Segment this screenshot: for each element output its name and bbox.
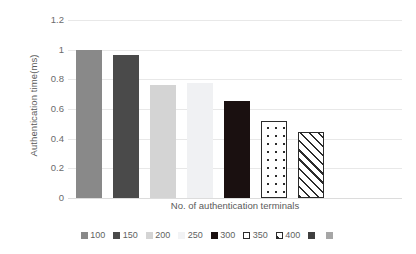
bar-300 bbox=[224, 101, 250, 198]
y-axis-tick-label: 0.6 bbox=[30, 104, 64, 114]
legend-item-200[interactable]: 200 bbox=[146, 231, 171, 240]
bar-400 bbox=[298, 132, 324, 198]
y-axis-tick-label: 1.2 bbox=[30, 15, 64, 25]
legend-swatch-icon bbox=[146, 232, 153, 239]
bar-200 bbox=[150, 85, 176, 198]
legend-label: 150 bbox=[123, 231, 138, 240]
bar-100 bbox=[76, 50, 102, 198]
legend-swatch-icon bbox=[308, 232, 315, 239]
legend-label: 200 bbox=[155, 231, 170, 240]
chart-legend: 100150200250300350400 bbox=[0, 231, 416, 240]
x-axis-title: No. of authentication terminals bbox=[68, 200, 402, 211]
legend-item-150[interactable]: 150 bbox=[113, 231, 138, 240]
legend-swatch-icon bbox=[326, 232, 333, 239]
legend-swatch-icon bbox=[113, 232, 120, 239]
plot-area bbox=[68, 20, 402, 198]
legend-swatch-icon bbox=[276, 232, 283, 239]
legend-item-400[interactable]: 400 bbox=[276, 231, 301, 240]
legend-item-350[interactable]: 350 bbox=[243, 231, 268, 240]
legend-item-8[interactable] bbox=[326, 232, 336, 239]
bar-350 bbox=[261, 121, 287, 198]
legend-label: 100 bbox=[90, 231, 105, 240]
y-axis-tick-label: 0.4 bbox=[30, 134, 64, 144]
legend-item-250[interactable]: 250 bbox=[178, 231, 203, 240]
y-axis-tick-label: 0.2 bbox=[30, 163, 64, 173]
legend-swatch-icon bbox=[178, 232, 185, 239]
legend-swatch-icon bbox=[211, 232, 218, 239]
legend-item-300[interactable]: 300 bbox=[211, 231, 236, 240]
legend-swatch-icon bbox=[243, 232, 250, 239]
legend-label: 350 bbox=[253, 231, 268, 240]
y-axis-tick-label: 0.8 bbox=[30, 74, 64, 84]
y-axis-tick-label: 0 bbox=[30, 193, 64, 203]
bar-chart: Authentication time(ms) 00.20.40.60.811.… bbox=[0, 0, 416, 254]
bar-250 bbox=[187, 83, 213, 198]
bar-group bbox=[68, 20, 402, 198]
y-axis-tick-label: 1 bbox=[30, 45, 64, 55]
gridline bbox=[68, 198, 402, 199]
legend-item-100[interactable]: 100 bbox=[81, 231, 106, 240]
bar-150 bbox=[113, 55, 139, 198]
legend-swatch-icon bbox=[81, 232, 88, 239]
y-axis-tick-labels: 00.20.40.60.811.2 bbox=[24, 0, 64, 254]
legend-label: 300 bbox=[220, 231, 235, 240]
legend-label: 400 bbox=[285, 231, 300, 240]
legend-item-7[interactable] bbox=[308, 232, 318, 239]
legend-label: 250 bbox=[188, 231, 203, 240]
